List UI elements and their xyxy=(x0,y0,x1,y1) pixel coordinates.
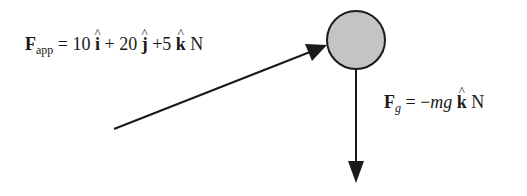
force-subscript: app xyxy=(36,43,53,57)
gravity-force-arrow xyxy=(348,69,364,183)
newton-unit: N xyxy=(467,92,485,112)
newton-unit: N xyxy=(186,34,204,54)
applied-force-label: Fapp = 10 i + 20 j +5 k N xyxy=(25,35,203,53)
i-hat-unit-vector: i xyxy=(95,35,100,53)
k-hat-unit-vector: k xyxy=(176,35,186,53)
force-symbol: F xyxy=(384,92,395,112)
gravity-force-label: Fg = −mg k N xyxy=(384,93,484,111)
equals-sign: = xyxy=(53,34,72,54)
object-sphere xyxy=(327,11,385,69)
i-coefficient: 10 xyxy=(72,34,95,54)
applied-force-arrow xyxy=(114,44,327,129)
mass-gravity: mg xyxy=(430,92,452,112)
j-hat-unit-vector: j xyxy=(142,35,148,53)
plus-sign: + xyxy=(100,34,119,54)
equals-minus-sign: = − xyxy=(401,92,430,112)
k-coefficient: +5 xyxy=(148,34,176,54)
force-symbol: F xyxy=(25,34,36,54)
j-coefficient: 20 xyxy=(119,34,142,54)
k-hat-unit-vector: k xyxy=(457,93,467,111)
